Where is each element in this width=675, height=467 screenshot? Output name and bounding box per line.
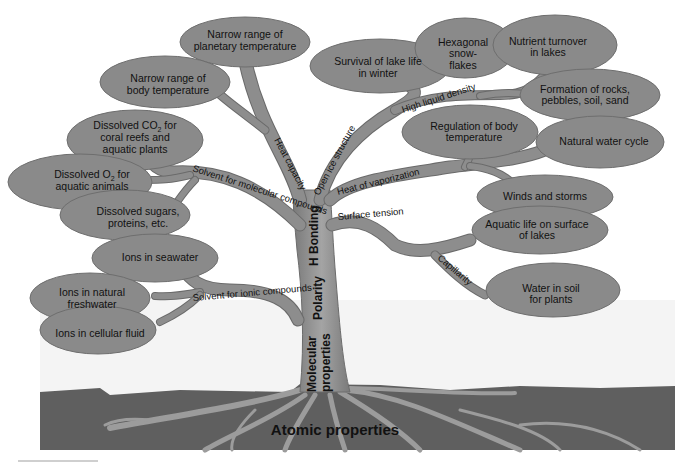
trunk-label-polarity: Polarity bbox=[311, 276, 325, 320]
label-sugars-1: Dissolved sugars, bbox=[97, 205, 180, 217]
label-freshwater-1: Ions in natural bbox=[59, 286, 125, 298]
label-lake-1: Survival of lake life bbox=[334, 55, 422, 67]
label-planetary-2: planetary temperature bbox=[194, 40, 297, 52]
label-sugars-2: proteins, etc. bbox=[108, 217, 168, 229]
water-properties-tree-diagram: Narrow range of planetary temperature Na… bbox=[0, 0, 675, 467]
label-body-1: Narrow range of bbox=[130, 72, 205, 84]
label-o2-2: aquatic animals bbox=[56, 180, 129, 192]
trunk-label-h-bonding: H Bonding bbox=[307, 205, 321, 266]
label-soil-2: for plants bbox=[529, 293, 572, 305]
label-hex-3: flakes bbox=[449, 59, 476, 71]
trunk-label-properties: properties bbox=[319, 333, 333, 392]
label-water-cycle: Natural water cycle bbox=[559, 135, 648, 147]
trunk-label-molecular: Molecular bbox=[305, 336, 319, 392]
label-lake-2: in winter bbox=[358, 67, 398, 79]
label-seawater: Ions in seawater bbox=[122, 251, 199, 263]
label-rocks-2: pebbles, soil, sand bbox=[542, 94, 629, 106]
label-body-2: body temperature bbox=[127, 84, 209, 96]
label-cellular: Ions in cellular fluid bbox=[55, 327, 144, 339]
label-regulation-2: temperature bbox=[446, 131, 503, 143]
ground-label-atomic-properties: Atomic properties bbox=[271, 421, 399, 438]
branch-label-surface-tension: Surface tension bbox=[337, 205, 404, 222]
footer-rule bbox=[18, 460, 98, 462]
label-planetary-1: Narrow range of bbox=[207, 28, 282, 40]
label-hex-2: snow- bbox=[449, 47, 478, 59]
label-co2-2: coral reefs and bbox=[100, 131, 170, 143]
label-aquatic-2: of lakes bbox=[519, 229, 555, 241]
label-co2-3: aquatic plants bbox=[103, 143, 168, 155]
label-freshwater-2: freshwater bbox=[67, 298, 117, 310]
label-nutrient-2: in lakes bbox=[530, 46, 566, 58]
label-winds: Winds and storms bbox=[503, 190, 587, 202]
branch-label-capillarity: Capillarity bbox=[436, 252, 475, 287]
